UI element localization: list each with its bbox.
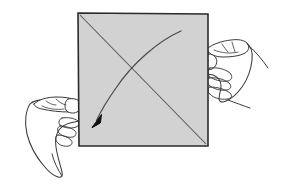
square-sheet [78,13,208,146]
origami-diagram [0,0,290,188]
origami-illustration [0,0,290,188]
